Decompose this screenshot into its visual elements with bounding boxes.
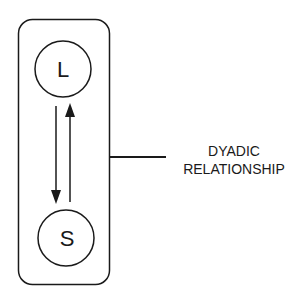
up-arrow-icon (65, 103, 75, 202)
node-leader: L (35, 41, 91, 97)
subordinate-label: S (60, 226, 75, 251)
dyadic-diagram: L S DYADIC RELATIONSHIP (0, 0, 297, 303)
annotation-line2: RELATIONSHIP (183, 161, 285, 177)
annotation-line1: DYADIC (208, 143, 260, 159)
down-arrow-icon (51, 106, 61, 204)
leader-label: L (57, 57, 69, 82)
node-subordinate: S (38, 210, 94, 266)
